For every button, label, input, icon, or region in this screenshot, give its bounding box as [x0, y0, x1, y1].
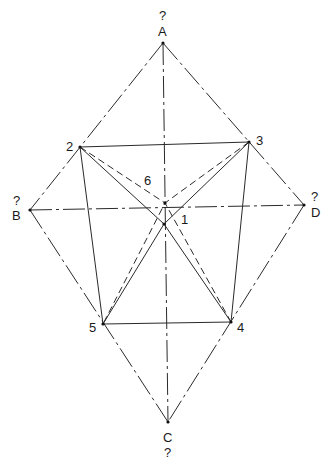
label-B: B — [12, 208, 21, 223]
diagonal-2-1-4 — [80, 147, 231, 322]
geometry-diagram: ? A ? B ? D C ? 1 2 3 4 5 6 — [0, 0, 329, 467]
edge-B-C — [30, 210, 168, 422]
label-2: 2 — [66, 139, 73, 154]
label-D: D — [311, 205, 320, 220]
edge-A-D — [163, 43, 304, 205]
dot-C — [166, 420, 169, 423]
question-D: ? — [311, 189, 318, 204]
edge-3-4 — [231, 142, 249, 322]
question-A: ? — [159, 8, 166, 23]
label-1: 1 — [181, 212, 188, 227]
outer-rhombus — [30, 43, 304, 422]
dot-3 — [247, 140, 250, 143]
dot-D — [302, 203, 305, 206]
edge-2-5 — [80, 147, 103, 324]
label-A: A — [158, 24, 167, 39]
dot-2 — [78, 145, 81, 148]
dot-5 — [101, 322, 104, 325]
dot-6 — [163, 201, 166, 204]
diagonal-2-6-4 — [80, 147, 231, 322]
diagonal-3-6-5 — [103, 142, 249, 324]
label-5: 5 — [89, 320, 96, 335]
dot-4 — [229, 320, 232, 323]
dot-1 — [162, 222, 165, 225]
label-4: 4 — [237, 320, 244, 335]
label-C: C — [163, 430, 172, 445]
dot-B — [28, 208, 31, 211]
label-3: 3 — [256, 133, 263, 148]
question-C: ? — [164, 445, 171, 460]
edge-D-C — [168, 205, 304, 422]
diagonal-3-1-5 — [103, 142, 249, 324]
question-B: ? — [13, 193, 20, 208]
label-6: 6 — [144, 173, 151, 188]
axis-A-C — [163, 43, 168, 422]
dot-A — [161, 41, 164, 44]
